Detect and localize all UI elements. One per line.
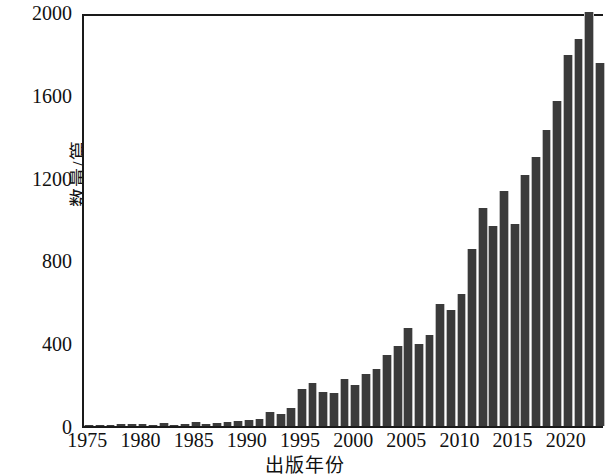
bar — [329, 393, 339, 426]
bar — [95, 425, 105, 426]
bar — [308, 383, 318, 426]
bar — [488, 226, 498, 426]
bar — [563, 55, 573, 426]
bar — [244, 420, 254, 426]
bar — [372, 369, 382, 426]
bar — [169, 425, 179, 426]
bar — [361, 374, 371, 426]
bar — [584, 12, 594, 426]
bar — [542, 130, 552, 426]
x-tick-label: 1975 — [57, 430, 117, 450]
bar — [138, 424, 148, 426]
bar — [382, 355, 392, 426]
bar — [127, 424, 137, 426]
bar — [414, 344, 424, 426]
y-tick-label: 2000 — [0, 3, 72, 23]
bar — [393, 346, 403, 426]
x-axis-title: 出版年份 — [0, 450, 609, 474]
bar — [212, 423, 222, 426]
bar — [457, 294, 467, 426]
x-tick-label: 1985 — [164, 430, 224, 450]
bar — [435, 304, 445, 426]
x-tick-label: 2005 — [376, 430, 436, 450]
bar — [510, 224, 520, 426]
bar — [403, 328, 413, 426]
bar — [233, 421, 243, 426]
x-tick-label: 1995 — [270, 430, 330, 450]
bar-chart: 数量/篇 出版年份 0400800120016002000 1975198019… — [0, 0, 609, 474]
bar — [191, 422, 201, 426]
bar — [265, 412, 275, 426]
bar — [116, 424, 126, 426]
x-tick-label: 2010 — [429, 430, 489, 450]
bar — [350, 385, 360, 426]
x-tick-label: 2000 — [323, 430, 383, 450]
bar — [159, 423, 169, 426]
plot-area — [82, 14, 603, 428]
bar — [478, 208, 488, 426]
bar — [552, 101, 562, 426]
bar — [286, 408, 296, 426]
bar — [531, 157, 541, 426]
y-tick-label: 1600 — [0, 86, 72, 106]
bar — [84, 425, 94, 426]
bar — [276, 414, 286, 426]
bar — [595, 63, 605, 426]
bar — [467, 249, 477, 426]
bar — [106, 425, 116, 426]
bar — [297, 389, 307, 426]
bar — [574, 39, 584, 426]
bar — [201, 424, 211, 426]
bar — [499, 191, 509, 426]
bar — [446, 310, 456, 426]
x-tick-label: 1980 — [110, 430, 170, 450]
x-tick-label: 2020 — [536, 430, 596, 450]
bar — [425, 335, 435, 426]
x-tick-label: 2015 — [483, 430, 543, 450]
x-tick-label: 1990 — [217, 430, 277, 450]
bar — [520, 175, 530, 427]
bar-series — [84, 16, 603, 426]
bar — [318, 392, 328, 426]
y-tick-label: 400 — [0, 334, 72, 354]
bar — [255, 419, 265, 426]
y-tick-label: 1200 — [0, 169, 72, 189]
bar — [148, 425, 158, 426]
y-tick-label: 800 — [0, 251, 72, 271]
bar — [340, 379, 350, 426]
bar — [180, 424, 190, 426]
bar — [223, 422, 233, 426]
